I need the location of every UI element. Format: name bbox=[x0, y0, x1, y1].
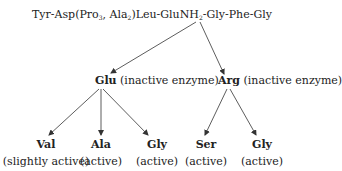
activity-label: (inactive enzyme) bbox=[244, 74, 342, 87]
root-part: , Ala bbox=[103, 8, 128, 21]
activity-label: (inactive enzyme) bbox=[120, 74, 219, 87]
residue-label: Glu bbox=[95, 74, 117, 87]
arrow-arg-to-ser bbox=[205, 89, 227, 135]
residue-label: Arg bbox=[218, 74, 240, 87]
residue-label: Gly bbox=[217, 138, 307, 151]
arrow-root-to-glu bbox=[111, 22, 196, 73]
activity-label: (active) bbox=[217, 155, 307, 168]
root-part: Tyr-Asp(Pro bbox=[32, 8, 99, 21]
arrow-glu-to-gly bbox=[103, 89, 148, 135]
node-arg: Arg (inactive enzyme) bbox=[218, 75, 342, 87]
arrow-root-to-arg bbox=[200, 22, 224, 74]
node-gly-from-arg: Gly (active) bbox=[217, 138, 307, 168]
root-part: )Leu-GluNH bbox=[131, 8, 199, 21]
arrow-glu-to-val bbox=[49, 89, 99, 135]
node-glu: Glu (inactive enzyme) bbox=[95, 75, 219, 87]
root-part: -Gly-Phe-Gly bbox=[203, 8, 272, 21]
arrow-arg-to-gly bbox=[230, 89, 256, 135]
root-peptide-sequence: Tyr-Asp(Pro3, Ala2)Leu-GluNH2-Gly-Phe-Gl… bbox=[32, 9, 272, 21]
